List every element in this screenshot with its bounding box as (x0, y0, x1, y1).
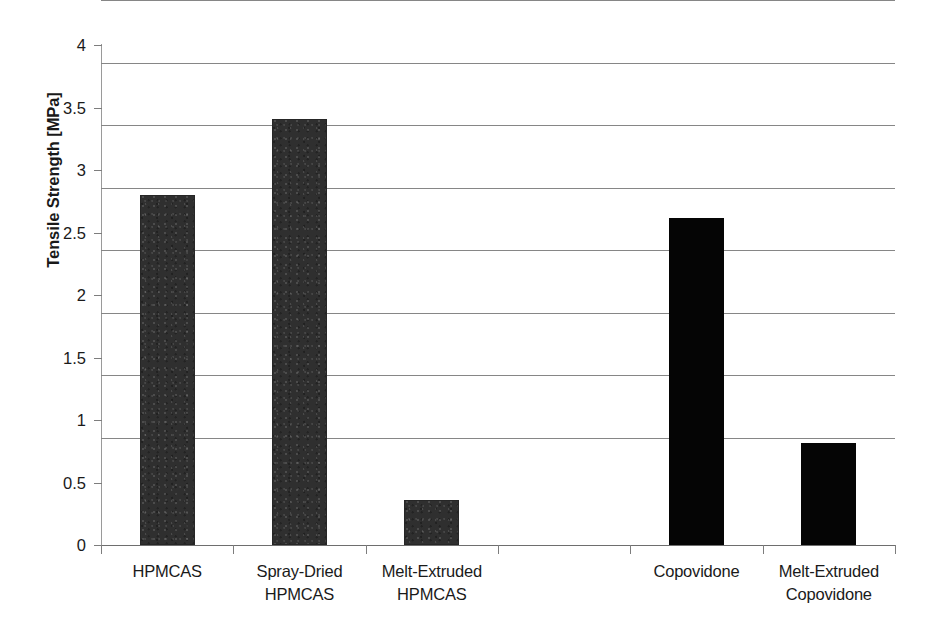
y-axis-tick-label: 1.5 (26, 350, 86, 367)
x-axis-category-label: Copovidone (620, 560, 772, 583)
x-axis-tick (366, 545, 367, 554)
y-axis-tick-label: 2.5 (26, 225, 86, 242)
y-axis-tick-label: 3.5 (26, 100, 86, 117)
y-axis-tick-label: 0 (26, 537, 86, 554)
y-axis-tick-label: 3 (26, 162, 86, 179)
plot-area (101, 45, 895, 545)
bar (272, 119, 327, 545)
x-axis-category-label: HPMCAS (91, 560, 243, 583)
bar (140, 195, 195, 545)
bar (669, 218, 724, 546)
y-axis-tick-label: 1 (26, 412, 86, 429)
bar (404, 500, 459, 545)
x-axis-tick (498, 545, 499, 554)
y-axis-tick-label: 2 (26, 287, 86, 304)
gridline (101, 0, 895, 1)
x-axis-tick (101, 545, 102, 554)
x-axis-category-label-line1: Spray-Dried (223, 560, 375, 583)
x-axis-category-label: Spray-DriedHPMCAS (223, 560, 375, 606)
x-axis-tick (763, 545, 764, 554)
x-axis-category-label-line1: Melt-Extruded (356, 560, 508, 583)
x-axis-category-label: Melt-ExtrudedCopovidone (753, 560, 905, 606)
x-axis-tick (630, 545, 631, 554)
x-axis-category-label: Melt-ExtrudedHPMCAS (356, 560, 508, 606)
x-axis-category-label-line1: HPMCAS (91, 560, 243, 583)
x-axis-tick (895, 545, 896, 554)
bar (801, 443, 856, 546)
x-axis-category-label-line2: HPMCAS (223, 583, 375, 606)
y-axis-tick-label: 4 (26, 37, 86, 54)
x-axis-category-label-line2: Copovidone (753, 583, 905, 606)
y-axis-tick-label: 0.5 (26, 475, 86, 492)
x-axis-category-label-line1: Copovidone (620, 560, 772, 583)
x-axis-tick (233, 545, 234, 554)
bar-chart: Tensile Strength [MPa] 43.532.521.510.50… (0, 0, 931, 638)
x-axis-category-label-line2: HPMCAS (356, 583, 508, 606)
x-axis-category-label-line1: Melt-Extruded (753, 560, 905, 583)
